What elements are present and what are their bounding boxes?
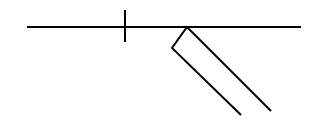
angled-strip xyxy=(172,27,271,115)
diagram-canvas xyxy=(0,0,313,125)
